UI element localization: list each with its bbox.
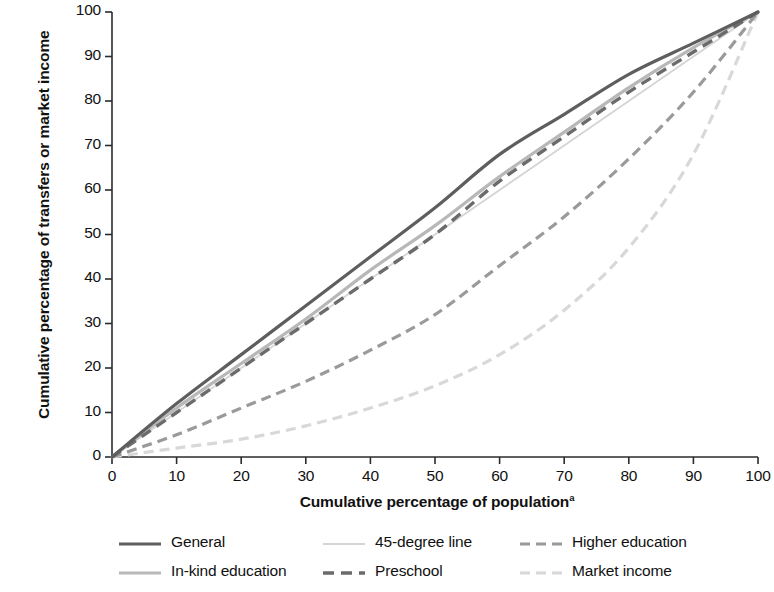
legend-item-in-kind-education: In-kind education: [118, 562, 322, 580]
x-tick-label: 80: [609, 467, 649, 485]
legend-label-higher-education: Higher education: [572, 533, 687, 551]
legend-item-market-income: Market income: [519, 562, 749, 580]
y-tick-label: 80: [61, 90, 101, 108]
x-tick-label: 50: [415, 467, 455, 485]
lorenz-curve-figure: Cumulative percentage of transfers or ma…: [0, 0, 774, 592]
x-tick-label: 70: [544, 467, 584, 485]
x-tick-label: 100: [738, 467, 774, 485]
legend-row: In-kind education Preschool Market incom…: [118, 556, 768, 585]
legend-label-preschool: Preschool: [375, 562, 443, 580]
x-tick-label: 10: [157, 467, 197, 485]
x-tick-label: 60: [480, 467, 520, 485]
legend-item-general: General: [118, 533, 322, 551]
legend-label-market-income: Market income: [572, 562, 672, 580]
chart-legend: General 45-degree line Higher education …: [118, 527, 768, 585]
legend-item-higher-education: Higher education: [519, 533, 749, 551]
legend-label-in-kind-education: In-kind education: [171, 562, 287, 580]
y-tick-label: 10: [61, 402, 101, 420]
x-axis-label: Cumulative percentage of populationa: [112, 492, 762, 511]
legend-swatch-market-income: [519, 565, 563, 577]
legend-swatch-in-kind-education: [118, 565, 162, 577]
x-axis-label-footnote-marker: a: [569, 492, 574, 503]
x-axis-label-text: Cumulative percentage of population: [300, 493, 570, 510]
y-tick-label: 0: [61, 446, 101, 464]
y-tick-label: 70: [61, 135, 101, 153]
y-tick-label: 50: [61, 224, 101, 242]
y-tick-label: 20: [61, 357, 101, 375]
legend-swatch-higher-education: [519, 536, 563, 548]
legend-label-forty-five-degree-line: 45-degree line: [375, 533, 472, 551]
legend-swatch-forty-five-degree-line: [322, 536, 366, 548]
y-tick-label: 100: [61, 1, 101, 19]
y-tick-label: 40: [61, 268, 101, 286]
x-tick-label: 20: [221, 467, 261, 485]
x-tick-label: 30: [286, 467, 326, 485]
legend-row: General 45-degree line Higher education: [118, 527, 768, 556]
y-tick-label: 30: [61, 313, 101, 331]
legend-item-forty-five-degree-line: 45-degree line: [322, 533, 519, 551]
y-tick-label: 60: [61, 179, 101, 197]
legend-swatch-preschool: [322, 565, 366, 577]
x-tick-label: 40: [350, 467, 390, 485]
x-tick-label: 0: [92, 467, 132, 485]
legend-swatch-general: [118, 536, 162, 548]
x-tick-label: 90: [673, 467, 713, 485]
legend-item-preschool: Preschool: [322, 562, 519, 580]
y-tick-label: 90: [61, 46, 101, 64]
legend-label-general: General: [171, 533, 225, 551]
